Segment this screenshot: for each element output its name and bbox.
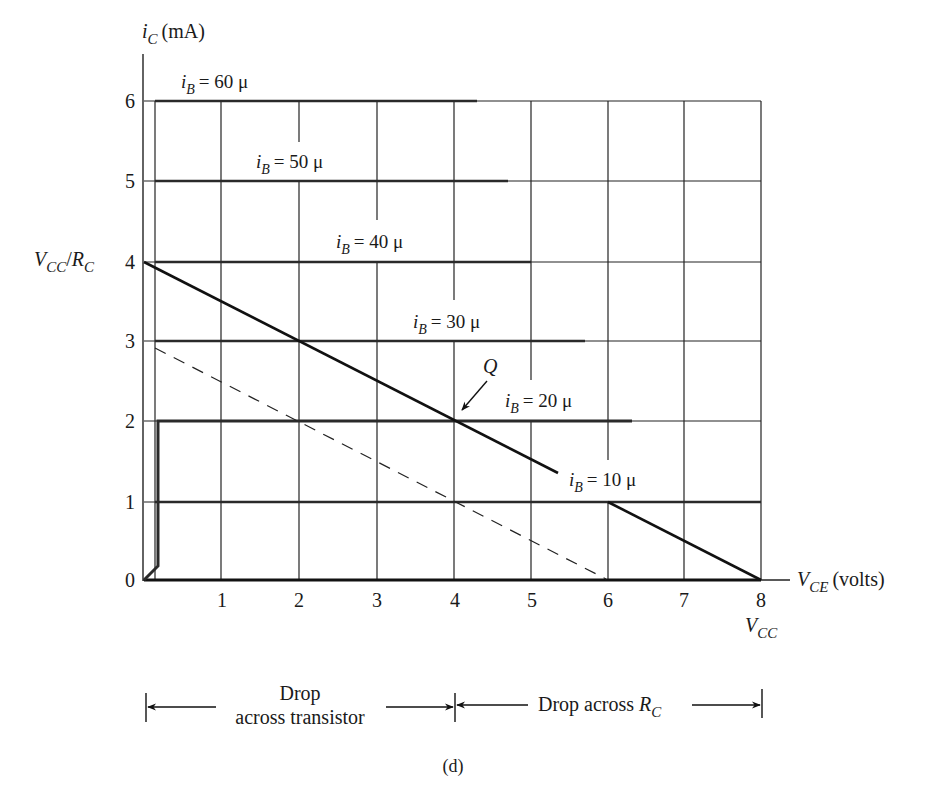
- x-tick-4: 4: [450, 589, 460, 611]
- q-point-arrow: [462, 381, 487, 410]
- x-tick-7: 7: [679, 589, 689, 611]
- y-tick-0: 0: [125, 569, 135, 591]
- drop-across-rc: Drop across RC: [538, 693, 662, 720]
- y-tick-labels: 0 1 2 3 4 5 6: [125, 90, 135, 591]
- y-tick-2: 2: [125, 410, 135, 432]
- label-ib-40: iB= 40 μ: [336, 231, 403, 257]
- y-tick-4: 4: [125, 251, 135, 273]
- drop-across-transistor-line2: across transistor: [235, 706, 365, 728]
- y-axis-title: iC(mA): [142, 20, 205, 47]
- curve-ib-20: [144, 421, 632, 580]
- drop-across-transistor-line1: Drop: [279, 682, 320, 705]
- y-tick-3: 3: [125, 330, 135, 352]
- x-axis-title: VCE(volts): [797, 568, 885, 595]
- x-tick-8: 8: [756, 589, 766, 611]
- label-ib-10: iB= 10 μ: [569, 469, 636, 495]
- vcc-label: VCC: [745, 614, 778, 641]
- figure-caption: (d): [443, 756, 464, 777]
- x-tick-2: 2: [294, 589, 304, 611]
- x-tick-6: 6: [603, 589, 613, 611]
- ib-labels: iB= 60 μ iB= 50 μ iB= 40 μ iB= 30 μ iB= …: [181, 71, 636, 495]
- y-tick-5: 5: [125, 170, 135, 192]
- x-tick-5: 5: [527, 589, 537, 611]
- label-ib-30: iB= 30 μ: [413, 311, 480, 337]
- y-tick-1: 1: [125, 491, 135, 513]
- x-tick-1: 1: [217, 589, 227, 611]
- y-tick-6: 6: [125, 90, 135, 112]
- label-ib-50: iB= 50 μ: [256, 151, 323, 177]
- transistor-characteristic-chart: Q iB= 60 μ iB= 50 μ iB= 40 μ iB= 30 μ iB…: [0, 0, 925, 798]
- label-ib-60: iB= 60 μ: [181, 71, 248, 97]
- vcc-over-rc-label: VCC/RC: [34, 248, 95, 275]
- label-ib-20: iB= 20 μ: [505, 390, 572, 416]
- q-point-label: Q: [483, 355, 498, 377]
- x-tick-3: 3: [372, 589, 382, 611]
- x-tick-labels: 1 2 3 4 5 6 7 8: [217, 589, 766, 611]
